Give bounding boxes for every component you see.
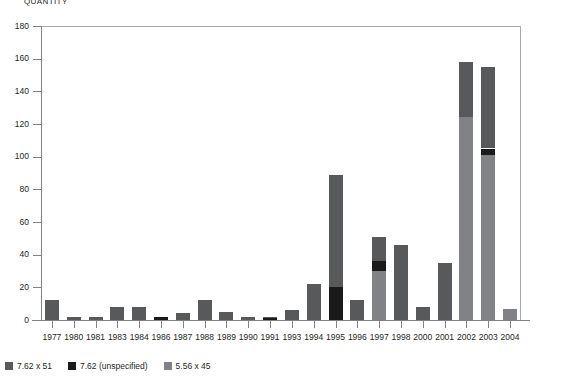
y-axis-tick	[33, 59, 41, 60]
bar-segment	[438, 263, 452, 320]
bar-segment	[241, 317, 255, 320]
bar-segment	[459, 117, 473, 320]
x-axis-tick	[74, 321, 75, 328]
x-axis-tick	[117, 321, 118, 328]
bar-segment	[459, 62, 473, 118]
y-axis-tick	[33, 287, 41, 288]
x-axis-tick	[401, 321, 402, 328]
bar-segment	[263, 317, 277, 319]
y-axis-label: 120	[0, 120, 29, 129]
chart-legend: 7.62 x 517.62 (unspecified)5.56 x 45	[5, 362, 211, 371]
x-axis-tick	[423, 321, 424, 328]
bar-segment	[154, 317, 168, 320]
x-axis-tick	[248, 321, 249, 328]
y-axis-tick	[33, 320, 41, 321]
y-axis-label: 160	[0, 54, 29, 63]
bar-segment	[132, 307, 146, 320]
x-axis-tick	[139, 321, 140, 328]
x-axis-tick	[314, 321, 315, 328]
x-axis-tick	[161, 321, 162, 328]
quantity-bar-chart: QUANTITY 020406080100120140160180 197719…	[0, 0, 562, 380]
bar-segment	[263, 318, 277, 320]
x-axis-tick	[379, 321, 380, 328]
bar-segment	[481, 149, 495, 156]
bar-segment	[503, 309, 517, 320]
bar-segment	[481, 67, 495, 149]
bar-segment	[372, 237, 386, 262]
y-axis-label: 180	[0, 22, 29, 31]
x-axis-tick	[183, 321, 184, 328]
bar-segment	[285, 310, 299, 320]
y-axis-tick	[33, 91, 41, 92]
bar-segment	[416, 307, 430, 320]
bar-segment	[45, 300, 59, 320]
x-axis-tick	[466, 321, 467, 328]
bar-segment	[198, 300, 212, 320]
y-axis-label: 80	[0, 185, 29, 194]
x-axis-line	[32, 320, 530, 321]
y-axis-tick	[33, 26, 41, 27]
y-axis-tick	[33, 157, 41, 158]
x-axis-tick	[205, 321, 206, 328]
bar-segment	[176, 313, 190, 320]
bar-segment	[394, 245, 408, 320]
bar-segment	[372, 261, 386, 271]
bar-segment	[89, 317, 103, 320]
y-axis-label: 0	[0, 316, 29, 325]
y-axis-label: 20	[0, 283, 29, 292]
x-axis-tick	[357, 321, 358, 328]
x-axis-tick	[336, 321, 337, 328]
legend-item: 7.62 (unspecified)	[68, 362, 148, 371]
x-axis-tick	[445, 321, 446, 328]
x-axis-tick	[270, 321, 271, 328]
bar-segment	[350, 300, 364, 320]
bar-segment	[372, 271, 386, 320]
y-axis-tick	[33, 255, 41, 256]
x-axis-tick	[96, 321, 97, 328]
legend-swatch-icon	[68, 362, 76, 370]
x-axis-tick	[52, 321, 53, 328]
bar-segment	[219, 312, 233, 320]
y-axis-tick	[33, 222, 41, 223]
y-axis-label: 100	[0, 152, 29, 161]
x-axis-tick	[488, 321, 489, 328]
legend-item: 7.62 x 51	[5, 362, 52, 371]
legend-label: 5.56 x 45	[176, 362, 211, 371]
bar-segment	[481, 155, 495, 320]
y-axis-label: 140	[0, 87, 29, 96]
chart-axis-title: QUANTITY	[24, 0, 68, 6]
y-axis-label: 60	[0, 218, 29, 227]
bar-segment	[67, 317, 81, 320]
bar-segment	[329, 175, 343, 288]
y-axis-tick	[33, 124, 41, 125]
legend-swatch-icon	[5, 362, 13, 370]
bar-segment	[307, 284, 321, 320]
legend-swatch-icon	[164, 362, 172, 370]
y-axis-tick	[33, 189, 41, 190]
x-axis-label: 2004	[494, 333, 526, 342]
x-axis-tick	[292, 321, 293, 328]
x-axis-tick	[510, 321, 511, 328]
bar-segment	[110, 307, 124, 320]
bar-segment	[329, 287, 343, 320]
legend-item: 5.56 x 45	[164, 362, 211, 371]
legend-label: 7.62 x 51	[17, 362, 52, 371]
x-axis-tick	[226, 321, 227, 328]
legend-label: 7.62 (unspecified)	[80, 362, 148, 371]
y-axis-label: 40	[0, 250, 29, 259]
